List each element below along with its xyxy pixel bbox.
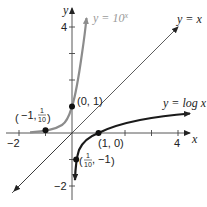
point-label-1-0: (1, 0) (98, 137, 124, 149)
logarithmic-curve (75, 114, 190, 181)
y-tick-label-4: 4 (61, 21, 67, 33)
y-axis-label: y (62, 3, 69, 17)
point-neg1-tenth (43, 127, 49, 133)
svg-text:(: ( (15, 112, 19, 124)
svg-text:, −1: , −1 (92, 153, 111, 165)
graph-canvas: y x −2 4 4 −2 y = 10x y = x y = log x (0… (0, 0, 207, 207)
svg-text:1: 1 (86, 152, 90, 159)
x-axis-label: x (191, 132, 198, 146)
point-label-tenth-neg1: ( 1 10 , −1 ) (79, 152, 115, 168)
point-1-0 (96, 130, 102, 136)
svg-text:): ) (47, 112, 51, 124)
svg-text:10: 10 (84, 161, 92, 168)
identity-line-label: y = x (176, 12, 202, 26)
y-tick-label-neg2: −2 (54, 180, 67, 192)
svg-text:−1,: −1, (21, 109, 37, 121)
svg-text:(: ( (79, 155, 83, 167)
exponential-curve-label: y = 10x (92, 11, 128, 25)
logarithmic-curve-label: y = log x (162, 96, 207, 110)
svg-text:10: 10 (38, 116, 46, 123)
svg-text:1: 1 (40, 107, 44, 114)
identity-line (12, 27, 178, 193)
point-0-1 (69, 104, 75, 110)
point-label-neg1-tenth: ( −1, 1 10 ) (15, 107, 51, 124)
x-tick-label-4: 4 (174, 137, 180, 149)
x-tick-label-neg2: −2 (7, 137, 20, 149)
point-label-0-1: (0, 1) (77, 95, 103, 107)
svg-text:): ) (111, 155, 115, 167)
